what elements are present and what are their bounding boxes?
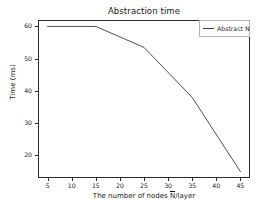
x-tick-label: 10 [60,182,84,189]
x-tick-mark [96,178,97,181]
y-tick-mark [35,123,38,124]
x-tick-mark [192,178,193,181]
y-tick-mark [35,155,38,156]
x-tick-mark [240,178,241,181]
x-tick-label: 20 [108,182,132,189]
legend-line-swatch [203,28,214,29]
x-axis-label: The number of nodes N/layer [38,192,250,200]
x-tick-mark [48,178,49,181]
x-tick-mark [216,178,217,181]
chart-figure: Abstraction time 51015202530354045 20304… [0,0,261,210]
legend-label-abstract-n: Abstract N [217,25,250,32]
x-tick-mark [144,178,145,181]
y-tick-label: 60 [8,22,32,29]
x-tick-mark [120,178,121,181]
x-tick-label: 25 [132,182,156,189]
y-tick-mark [35,59,38,60]
x-tick-label: 30 [156,182,180,189]
legend: Abstract N [199,20,250,37]
x-tick-mark [72,178,73,181]
x-axis-label-nbar: N [170,192,175,200]
x-tick-label: 35 [180,182,204,189]
y-tick-mark [35,91,38,92]
x-tick-mark [168,178,169,181]
x-tick-label: 45 [228,182,252,189]
x-tick-label: 40 [204,182,228,189]
x-axis-label-post: /layer [175,192,195,200]
plot-area [38,20,250,178]
y-tick-label: 20 [8,151,32,158]
chart-title: Abstraction time [38,6,250,16]
x-tick-label: 5 [36,182,60,189]
y-tick-mark [35,26,38,27]
y-axis-label: Time (ms) [9,47,17,117]
x-tick-label: 15 [84,182,108,189]
x-axis-label-pre: The number of nodes [93,192,170,200]
y-tick-label: 30 [8,119,32,126]
